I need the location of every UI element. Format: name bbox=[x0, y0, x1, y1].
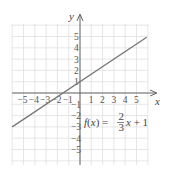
y-tick-label: −2 bbox=[71, 111, 81, 121]
y-tick-label: 5 bbox=[74, 32, 79, 42]
y-tick-label: −4 bbox=[71, 134, 81, 144]
x-tick-label: 3 bbox=[111, 95, 116, 105]
x-tick-label: 1 bbox=[89, 95, 94, 105]
y-tick-label: −1 bbox=[71, 100, 81, 110]
y-axis-label: y bbox=[68, 10, 74, 22]
svg-text:x + 1: x + 1 bbox=[125, 116, 148, 128]
x-tick-label: −4 bbox=[29, 95, 39, 105]
y-tick-label: 3 bbox=[74, 55, 79, 65]
y-tick-label: 4 bbox=[74, 43, 79, 53]
fraction-denominator: 3 bbox=[119, 121, 125, 133]
x-axis-label: x bbox=[154, 95, 160, 107]
y-tick-label: −3 bbox=[71, 122, 81, 132]
x-tick-label: 4 bbox=[123, 95, 128, 105]
x-tick-label: −5 bbox=[18, 95, 28, 105]
svg-text:f(x) =: f(x) = bbox=[84, 116, 108, 129]
x-tick-label: 5 bbox=[134, 95, 139, 105]
function-graph: x y −5−4−3−2−112345 54321−1−2−3−4−5 f(x)… bbox=[0, 0, 169, 174]
y-tick-label: 2 bbox=[74, 66, 79, 76]
x-tick-label: −3 bbox=[40, 95, 50, 105]
function-label: f(x) = 2 3 x + 1 bbox=[84, 110, 148, 133]
x-tick-label: 2 bbox=[100, 95, 105, 105]
y-tick-label: −5 bbox=[71, 145, 81, 155]
